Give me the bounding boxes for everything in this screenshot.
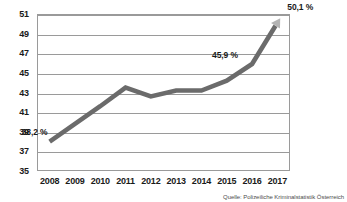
x-tick-label-2016: 2016 <box>242 177 261 186</box>
x-tick-label-2011: 2011 <box>116 177 135 186</box>
x-tick-label-2014: 2014 <box>192 177 211 186</box>
x-tick-label-2008: 2008 <box>40 177 59 186</box>
data-series-line <box>0 0 347 202</box>
x-tick-label-2013: 2013 <box>167 177 186 186</box>
label-2008: 38,2 % <box>22 128 48 137</box>
x-tick-label-2010: 2010 <box>91 177 110 186</box>
x-tick-label-2009: 2009 <box>65 177 84 186</box>
x-tick-label-2012: 2012 <box>141 177 160 186</box>
label-2017: 50,1 % <box>287 3 313 12</box>
x-tick-label-2015: 2015 <box>217 177 236 186</box>
label-2016: 45,9 % <box>212 51 238 60</box>
line-chart-figure: 353739414345474951 200820092010201120122… <box>0 0 347 202</box>
series-polyline <box>50 26 276 142</box>
x-axis: 2008200920102011201220132014201520162017 <box>37 177 290 191</box>
source-note: Quelle: Polizeiliche Kriminalstatistik Ö… <box>223 194 344 200</box>
x-tick-label-2017: 2017 <box>268 177 287 186</box>
